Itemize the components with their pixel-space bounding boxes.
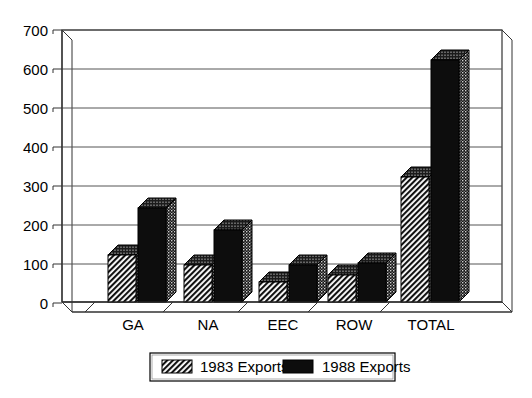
y-tick-label: 500 [23,100,48,117]
x-tick-label-na: NA [198,316,219,333]
x-tick-labels: GA NA EEC ROW TOTAL [122,316,454,333]
legend-item-1983: 1983 Exports [162,358,288,375]
x-tick-label-eec: EEC [268,316,299,333]
bar-ga-1988 [138,198,176,302]
y-tick-label: 600 [23,61,48,78]
x-tick-label-ga: GA [122,316,144,333]
legend-swatch-1988 [283,360,313,373]
y-tick-label: 700 [23,22,48,39]
bar-chart: 700 600 500 400 300 200 100 0 [0,0,532,398]
y-tick-label: 300 [23,178,48,195]
bar-eec-1988 [289,255,327,302]
bar-na-1988 [214,220,252,302]
y-tick-label: 0 [40,295,48,312]
y-axis [53,30,62,307]
x-tick-label-row: ROW [336,316,374,333]
chart-canvas: 700 600 500 400 300 200 100 0 [0,0,532,398]
y-tick-label: 400 [23,139,48,156]
chart-floor [62,302,512,312]
y-tick-label: 200 [23,217,48,234]
x-tick-label-total: TOTAL [408,316,455,333]
y-tick-label: 100 [23,256,48,273]
y-tick-labels: 700 600 500 400 300 200 100 0 [23,22,48,312]
bar-row-1988 [358,253,396,302]
legend-item-1988: 1988 Exports [283,358,410,375]
legend-label-1983: 1983 Exports [200,358,288,375]
legend-label-1988: 1988 Exports [322,358,410,375]
chart-legend: 1983 Exports 1988 Exports [150,353,410,381]
bar-total-1988 [431,50,469,302]
legend-swatch-1983 [162,360,192,373]
